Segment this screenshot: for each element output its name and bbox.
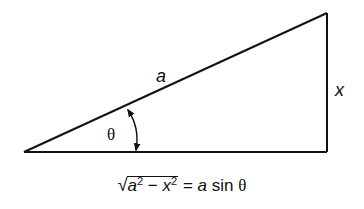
exp-x: 2 xyxy=(171,175,177,187)
hypotenuse-side xyxy=(24,13,327,152)
rhs-var-a: a xyxy=(198,176,207,195)
equals-sign: = xyxy=(183,176,193,195)
radicand: a2 − x2 xyxy=(127,176,179,195)
formula: √a2 − x2 = a sin θ xyxy=(0,175,364,196)
angle-arrow-icon xyxy=(128,110,137,150)
minus-sign: − xyxy=(148,176,158,195)
var-x: x xyxy=(163,176,172,195)
rhs-theta: θ xyxy=(238,176,246,195)
angle-label: θ xyxy=(107,125,115,144)
var-a: a xyxy=(128,176,137,195)
exp-a: 2 xyxy=(137,175,143,187)
hypotenuse-label: a xyxy=(156,66,166,86)
sin-function: sin xyxy=(212,176,234,195)
opposite-label: x xyxy=(334,80,345,100)
